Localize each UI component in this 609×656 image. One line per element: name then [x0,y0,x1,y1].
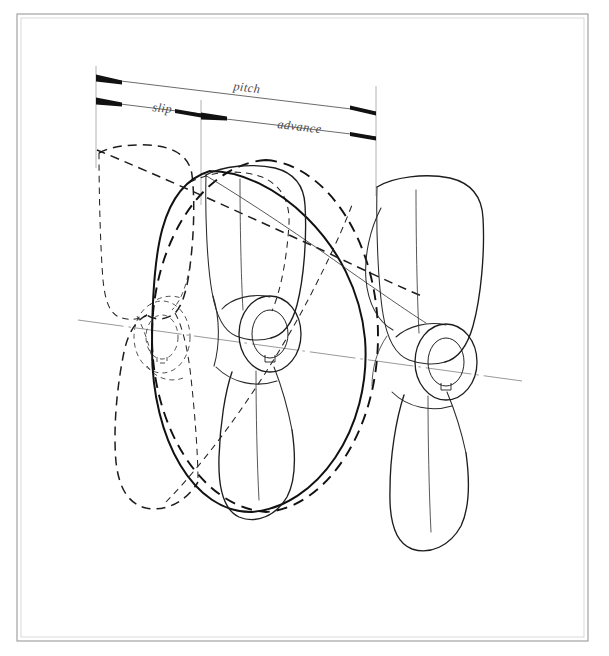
pitch-arrow-right [350,106,376,116]
hub-keyway-dashed [157,357,167,363]
pitch-arrow-left [96,75,122,85]
blade-left-right-prop [366,208,393,330]
slip-arrow-right [175,109,201,118]
propeller-initial-position [99,145,289,509]
blade-upper-right-inner [377,187,445,364]
hub-fairing-upper-centre [222,296,270,309]
hub-outer-dashed [134,301,190,373]
pitch-circle-solid [152,171,366,512]
blade-lower-right-rib [428,396,431,532]
dimension-slip [96,98,201,118]
helix-chord-solid-upper [205,175,426,323]
blade-lower-left-dashed-inner [175,313,198,482]
helix-chord-upper [97,150,424,297]
blade-lower-right-inner [447,392,466,453]
blade-upper-left-dashed-edge [172,266,190,310]
blade-lower-left-dashed [115,315,198,509]
blade-upper-left-dashed-inner [99,153,147,319]
hub-advanced [239,296,301,372]
propeller-advanced-position [206,166,306,520]
plate-border [17,14,588,641]
hub-inner-centre [252,310,288,358]
dimension-label-pitch: pitch [232,79,261,96]
slip-arrow-left [96,98,122,107]
blade-upper-centre [206,166,306,338]
hub-initial-dashed [134,301,190,373]
blade-upper-right-rib [416,190,419,333]
advance-arrow-left [201,113,227,121]
shaft-centre-line [78,320,522,381]
blade-right-dashed [190,172,289,311]
hub-outer-centre [239,296,301,372]
hub-fairing-left-centre [213,296,218,366]
dimension-label-slip: slip [152,100,173,116]
blade-lower-centre-rib [256,371,259,500]
advance-arrow-right [350,132,376,141]
propeller-final-position [366,176,484,551]
blade-upper-centre-inner [206,175,271,340]
propeller-pitch-diagram: pitch slip advance [0,0,609,656]
figure-root: pitch slip advance [0,0,609,656]
blade-lower-centre-inner [274,367,292,430]
dimension-label-advance: advance [277,117,323,136]
